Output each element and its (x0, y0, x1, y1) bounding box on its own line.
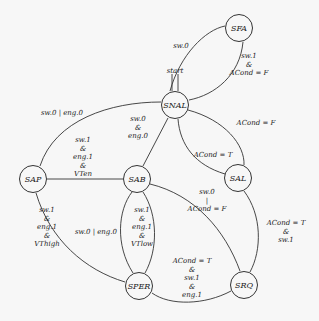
edge-label-sap-sab: sw.1 & eng.1 & VTen (73, 136, 93, 179)
edge-label-sfa-snal: sw.1 & ACond = F (230, 52, 269, 78)
edges-layer (0, 0, 319, 321)
edge-label-snal-sap: sw.0 | eng.0 (41, 109, 83, 118)
state-label-sper: SPER (128, 282, 151, 291)
edge-label-sal-snal: ACond = T (194, 151, 233, 160)
edge-label-sap-sper: sw.1 & eng.1 & VThigh (34, 206, 59, 249)
edge-label-sper-sab: sw.0 | eng.0 (75, 228, 117, 237)
state-label-srq: SRQ (235, 281, 253, 290)
edge-label-snal-sal: ACond = F (237, 119, 276, 128)
state-label-sal: SAL (230, 174, 247, 183)
edge-label-sab-sper: sw.1 & eng.1 & VTlow (131, 206, 153, 249)
edge-sal-snal (178, 119, 225, 174)
edge-label-sal-srq: ACond = T & sw.1 (267, 219, 306, 245)
edge-label-snal-sfa: sw.0 (173, 42, 188, 51)
edge-sal-srq (244, 191, 258, 272)
state-label-snal: SNAL (163, 101, 187, 110)
state-diagram: SFA SNAL SAL SAP SAB SPER SRQ start sw.0… (0, 0, 319, 321)
state-label-sfa: SFA (231, 24, 247, 33)
edge-label-srq-sper: ACond = T & sw.1 & eng.1 (173, 257, 212, 300)
edge-label-sab-srq: sw.0 | ACond = F (188, 188, 227, 214)
start-label: start (167, 67, 184, 76)
edge-label-snal-sab: sw.0 & eng.0 (128, 115, 148, 141)
state-label-sab: SAB (128, 175, 145, 184)
state-label-sap: SAP (25, 175, 42, 184)
